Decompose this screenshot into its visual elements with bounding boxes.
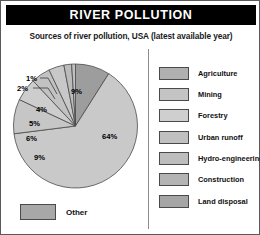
slice-label-64: 64%: [102, 132, 117, 141]
legend-label-urban-runoff: Urban runoff: [198, 133, 243, 142]
legend-swatch-hydro-engineering: [159, 152, 189, 165]
legend-item-agriculture[interactable]: Agriculture: [159, 65, 259, 81]
legend-label-other: Other: [66, 208, 87, 217]
page-title: RIVER POLLUTION: [70, 8, 193, 22]
legend-label-construction: Construction: [198, 175, 244, 184]
legend-label-agriculture: Agriculture: [198, 69, 237, 78]
chart-card: RIVER POLLUTION Sources of river polluti…: [0, 0, 260, 235]
legend-label-hydro-engineering: Hydro-engineering: [198, 154, 260, 163]
legend-label-mining: Mining: [198, 90, 222, 99]
slice-label-6: 6%: [26, 134, 37, 143]
legend-swatch-urban-runoff: [159, 131, 189, 144]
legend-label-forestry: Forestry: [198, 111, 228, 120]
legend-swatch-land-disposal: [159, 195, 189, 208]
legend: Agriculture Mining Forestry Urban runoff…: [159, 65, 259, 215]
legend-item-mining[interactable]: Mining: [159, 86, 259, 102]
legend-item-urban-runoff[interactable]: Urban runoff: [159, 129, 259, 145]
slice-label-1: 1%: [26, 74, 37, 83]
legend-item-forestry[interactable]: Forestry: [159, 108, 259, 124]
legend-label-land-disposal: Land disposal: [198, 197, 248, 206]
slice-label-9b: 9%: [34, 153, 45, 162]
slice-label-4: 4%: [36, 105, 47, 114]
legend-swatch-agriculture: [159, 67, 189, 80]
legend-swatch-other: [20, 204, 56, 220]
legend-swatch-construction: [159, 173, 189, 186]
slice-label-5: 5%: [29, 119, 40, 128]
vertical-divider: [148, 49, 149, 229]
slice-label-9: 9%: [71, 87, 82, 96]
slice-label-2: 2%: [17, 84, 28, 93]
legend-item-land-disposal[interactable]: Land disposal: [159, 193, 259, 209]
chart-subtitle: Sources of river pollution, USA (latest …: [1, 31, 260, 41]
pie-svg: [3, 49, 148, 204]
legend-swatch-mining: [159, 88, 189, 101]
legend-item-other[interactable]: Other: [20, 204, 87, 220]
legend-item-construction[interactable]: Construction: [159, 172, 259, 188]
legend-item-hydro-engineering[interactable]: Hydro-engineering: [159, 151, 259, 167]
legend-swatch-forestry: [159, 109, 189, 122]
title-bar: RIVER POLLUTION: [6, 5, 256, 25]
